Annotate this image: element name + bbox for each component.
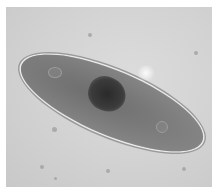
speck bbox=[40, 165, 44, 169]
light-glare bbox=[136, 65, 156, 81]
speck bbox=[52, 127, 57, 132]
contractile-vacuole bbox=[156, 121, 168, 133]
speck bbox=[194, 51, 198, 55]
food-vacuole bbox=[48, 67, 62, 78]
speck bbox=[106, 169, 110, 173]
speck bbox=[54, 177, 57, 180]
speck bbox=[182, 167, 186, 171]
speck bbox=[88, 33, 92, 37]
micrograph bbox=[6, 7, 212, 187]
